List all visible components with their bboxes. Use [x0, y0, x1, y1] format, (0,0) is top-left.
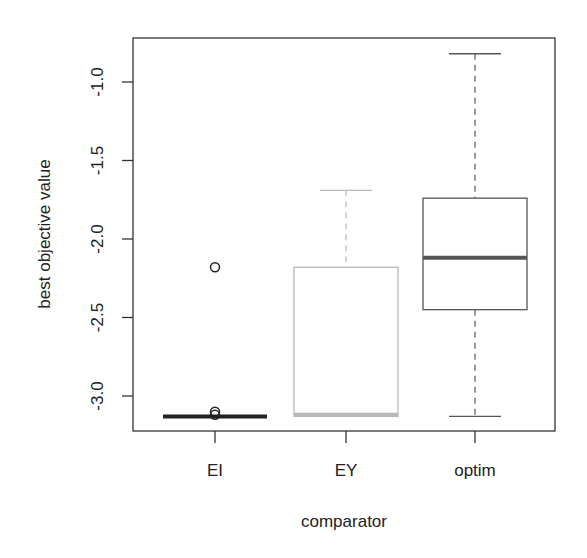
iqr-box: [423, 198, 527, 309]
x-tick-label-ei: EI: [207, 461, 223, 480]
y-axis-title: best objective value: [35, 159, 54, 308]
y-tick-label: -1.5: [88, 146, 107, 175]
iqr-box: [294, 267, 398, 416]
y-tick-label: -1.0: [88, 67, 107, 96]
x-tick-label-optim: optim: [454, 461, 496, 480]
boxplot-chart: -1.0-1.5-2.0-2.5-3.0 EIEYoptim comparato…: [0, 0, 587, 558]
x-tick-label-ey: EY: [335, 461, 358, 480]
x-axis-title: comparator: [301, 512, 387, 531]
y-tick-label: -2.0: [88, 224, 107, 253]
y-tick-label: -2.5: [88, 303, 107, 332]
y-tick-label: -3.0: [88, 381, 107, 410]
